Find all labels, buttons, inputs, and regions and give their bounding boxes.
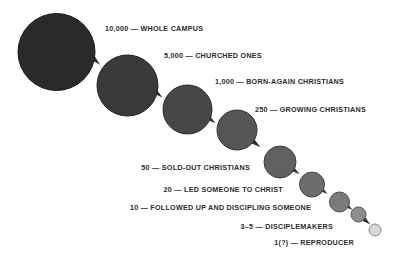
funnel-circle-followed-up-and-discipling-someone[interactable] (330, 192, 350, 212)
funnel-circle-born-again-christians[interactable] (163, 85, 212, 134)
funnel-diagram (0, 0, 404, 263)
funnel-label-churched-ones: 5,000 — CHURCHED ONES (164, 51, 262, 60)
funnel-label-followed-up-and-discipling-someone: 10 — FOLLOWED UP AND DISCIPLING SOMEONE (130, 203, 311, 212)
funnel-label-sold-out-christians: 50 — SOLD-OUT CHRISTIANS (141, 163, 250, 172)
funnel-label-reproducer: 1(?) — REPRODUCER (274, 238, 354, 247)
funnel-label-born-again-christians: 1,000 — BORN-AGAIN CHRISTIANS (215, 77, 344, 86)
funnel-circle-churched-ones[interactable] (97, 55, 158, 116)
funnel-label-whole-campus: 10,000 — WHOLE CAMPUS (105, 24, 203, 33)
funnel-circle-reproducer[interactable] (369, 224, 381, 236)
funnel-circle-growing-christians[interactable] (217, 110, 257, 150)
funnel-circle-led-someone-to-christ[interactable] (300, 172, 325, 197)
funnel-label-disciplemakers: 3–5 — DISCIPLEMAKERS (241, 222, 333, 231)
funnel-circle-whole-campus[interactable] (18, 14, 95, 91)
diagram-canvas: 10,000 — WHOLE CAMPUS5,000 — CHURCHED ON… (0, 0, 404, 263)
funnel-circle-sold-out-christians[interactable] (264, 146, 296, 178)
funnel-label-led-someone-to-christ: 20 — LED SOMEONE TO CHRIST (164, 185, 283, 194)
funnel-label-growing-christians: 250 — GROWING CHRISTIANS (255, 105, 366, 114)
funnel-circle-disciplemakers[interactable] (351, 207, 366, 222)
